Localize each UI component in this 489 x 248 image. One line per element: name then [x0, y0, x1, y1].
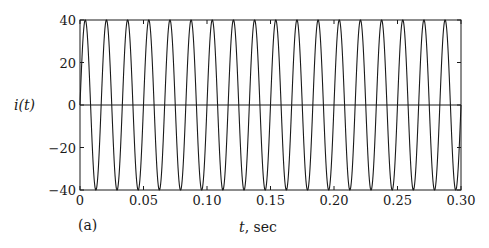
x-tick-label: 0.05 — [129, 193, 158, 208]
x-axis-label: t, sec — [239, 219, 277, 235]
y-tick-labels: −40−2002040 — [49, 13, 76, 198]
x-tick-labels: 00.050.100.150.200.250.30 — [76, 193, 476, 208]
x-tick-label: 0.20 — [320, 193, 349, 208]
x-tick-label: 0.10 — [193, 193, 222, 208]
chart-svg: 00.050.100.150.200.250.30 −40−2002040 i(… — [0, 0, 489, 248]
y-tick-label: 20 — [59, 56, 76, 71]
panel-label: (a) — [78, 217, 97, 233]
plot-area — [80, 20, 461, 190]
y-tick-label: 0 — [68, 98, 76, 113]
y-tick-label: 40 — [59, 13, 76, 28]
y-tick-label: −20 — [49, 141, 76, 156]
y-axis-label: i(t) — [14, 97, 35, 113]
x-tick-label: 0 — [76, 193, 84, 208]
x-tick-label: 0.15 — [256, 193, 285, 208]
x-axis-unit: , sec — [245, 219, 277, 235]
y-tick-label: −40 — [49, 183, 76, 198]
x-tick-label: 0.25 — [383, 193, 412, 208]
x-tick-label: 0.30 — [447, 193, 476, 208]
